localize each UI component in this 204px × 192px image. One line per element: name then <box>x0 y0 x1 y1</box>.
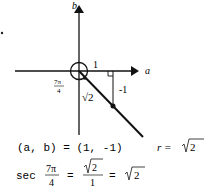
trig-diagram: b a 1 -1 √2 7π 4 (a, b) = (1, -1) r = 2 … <box>0 0 204 192</box>
point-equation: (a, b) = (1, -1) <box>17 142 123 154</box>
frac-num: 2 <box>92 162 97 173</box>
r-value: 2 <box>190 141 196 153</box>
point-marker <box>111 104 116 109</box>
hypotenuse-label: √2 <box>82 91 94 103</box>
angle-denominator: 4 <box>57 87 61 95</box>
sec-angle-den: 4 <box>49 177 54 188</box>
terminal-side <box>79 71 143 137</box>
sec-angle-num: 7π <box>46 163 56 174</box>
frac-den: 1 <box>90 177 95 188</box>
r-label: r = <box>157 141 171 153</box>
a-axis-arrow-icon <box>131 66 139 76</box>
right-angle-mark <box>108 71 113 76</box>
a-axis-label: a <box>145 65 150 76</box>
equals-2: = <box>109 170 116 182</box>
sec-word: sec <box>16 170 36 182</box>
result: 2 <box>134 169 140 181</box>
opposite-label: -1 <box>119 84 127 95</box>
angle-numerator: 7π <box>54 78 62 86</box>
b-axis-label: b <box>72 0 77 11</box>
stray-dot <box>1 32 3 34</box>
adjacent-label: 1 <box>93 59 98 70</box>
equals-1: = <box>67 170 74 182</box>
